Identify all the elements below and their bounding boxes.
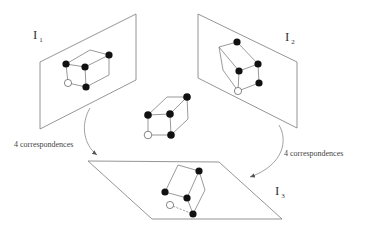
- correspondences-label-left: 4 correspondences: [14, 141, 73, 149]
- label-i2: I2: [285, 30, 295, 46]
- label-i3: I3: [275, 184, 285, 200]
- label-i1: I1: [33, 28, 43, 44]
- arrow-i2-to-i3: [250, 125, 283, 177]
- cube-projection-i1: [62, 50, 112, 91]
- central-cube: [144, 93, 191, 139]
- arrow-i1-to-i3: [84, 108, 97, 155]
- image-plane-i2: [198, 14, 297, 128]
- cube-projection-i3: [161, 165, 205, 218]
- correspondences-label-right: 4 correspondences: [284, 150, 343, 158]
- image-plane-i3: [88, 161, 282, 219]
- diagram-canvas: I1 I2 I3 4 correspondences 4 corresponde…: [0, 0, 366, 228]
- cube-projection-i2: [219, 38, 263, 94]
- diagram-svg: [0, 0, 366, 228]
